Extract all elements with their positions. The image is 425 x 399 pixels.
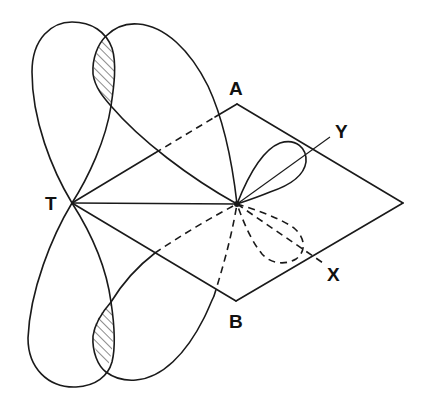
label-Y: Y: [335, 121, 348, 142]
y-axis: [237, 137, 330, 204]
label-B: B: [229, 311, 243, 332]
edge-A-right: [237, 104, 403, 203]
diagram-canvas: T A B Y X: [0, 0, 425, 399]
line-T-center: [72, 203, 237, 204]
edge-T-A-hidden: [155, 117, 215, 153]
x-lobe: [237, 204, 303, 263]
upper-diagonal-curve: [111, 106, 237, 204]
lower-diagonal-hidden: [155, 204, 237, 253]
lower-right-lobe-hidden: [214, 204, 237, 296]
y-lobe: [237, 142, 306, 204]
label-X: X: [327, 264, 340, 285]
lower-diagonal-curve: [111, 253, 155, 302]
label-T: T: [45, 193, 57, 214]
label-A: A: [229, 78, 243, 99]
center-point: [234, 201, 240, 207]
edge-T-A-solid: [72, 153, 155, 203]
